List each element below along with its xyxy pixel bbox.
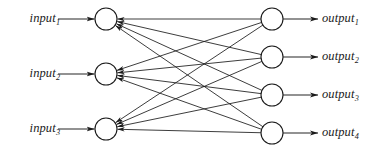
edges-group: [115, 19, 262, 133]
edge-4-to-3: [118, 129, 262, 132]
edge-2-to-1: [117, 22, 261, 55]
output-label-4-sub: 4: [355, 132, 359, 141]
input-label-3-sub: 3: [56, 128, 60, 137]
edge-2-to-2: [117, 58, 261, 73]
input-label-2-sub: 2: [56, 73, 60, 82]
edge-4-to-2: [117, 78, 262, 129]
edge-1-to-3: [116, 25, 263, 123]
output-label-3-sub: 3: [355, 94, 359, 103]
input-label-3-base: input: [30, 121, 56, 135]
output-node-3: [261, 84, 283, 106]
input-label-2: input2: [30, 67, 60, 80]
output-label-1: output1: [322, 12, 359, 25]
output-label-3-base: output: [322, 87, 355, 101]
input-node-2: [95, 63, 117, 85]
output-label-3: output3: [322, 88, 359, 101]
input-label-1-base: input: [30, 11, 56, 25]
output-label-1-base: output: [322, 11, 355, 25]
output-label-2: output2: [322, 50, 359, 63]
input-node-1: [95, 8, 117, 30]
edge-1-to-2: [117, 22, 262, 70]
input-label-1-sub: 1: [56, 18, 60, 27]
input-label-3: input3: [30, 122, 60, 135]
output-node-4: [261, 122, 283, 144]
neural-network-diagram: input1 input2 input3 output1 output2 out…: [0, 0, 380, 152]
output-label-4-base: output: [322, 125, 355, 139]
edge-3-to-2: [117, 75, 261, 93]
input-node-3: [95, 118, 117, 140]
output-label-2-sub: 2: [355, 56, 359, 65]
input-label-1: input1: [30, 12, 60, 25]
output-label-1-sub: 1: [355, 18, 359, 27]
output-label-2-base: output: [322, 49, 355, 63]
edge-3-to-3: [117, 97, 261, 126]
output-label-4: output4: [322, 126, 359, 139]
input-label-2-base: input: [30, 66, 56, 80]
edge-3-to-1: [116, 24, 262, 91]
output-node-2: [261, 46, 283, 68]
output-node-1: [261, 8, 283, 30]
